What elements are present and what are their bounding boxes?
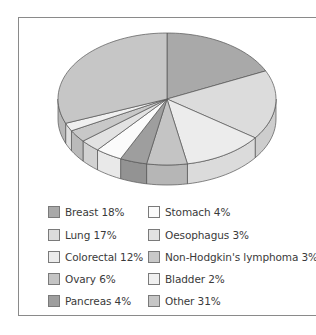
pie-chart [0, 0, 316, 335]
pie-top-faces [58, 33, 276, 165]
pie-side-ovary [147, 164, 188, 185]
